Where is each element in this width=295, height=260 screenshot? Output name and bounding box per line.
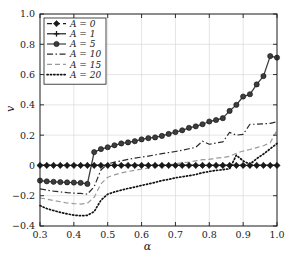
x-tick-label: 0.6 <box>134 229 149 240</box>
x-tick-label: 1.0 <box>269 229 284 240</box>
legend-label: A = 5 <box>69 39 96 49</box>
x-tick-label: 0.8 <box>202 229 217 240</box>
x-axis-label: α <box>0 240 295 253</box>
line-chart: 0.30.40.50.60.70.80.91.0−0.4−0.200.20.40… <box>0 0 295 260</box>
y-tick-label: −0.2 <box>12 190 35 201</box>
legend-label: A = 10 <box>69 49 101 59</box>
y-tick-label: 0 <box>29 160 35 171</box>
legend-label: A = 20 <box>69 70 101 80</box>
y-tick-label: 0.2 <box>20 130 35 141</box>
y-tick-label: −0.4 <box>12 220 35 231</box>
legend: A = 0A = 1A = 5A = 10A = 15A = 20 <box>44 18 106 84</box>
y-tick-label: 0.6 <box>20 69 35 80</box>
legend-label: A = 0 <box>69 19 96 29</box>
x-tick-label: 0.7 <box>168 229 183 240</box>
x-tick-label: 0.4 <box>66 229 81 240</box>
y-tick-label: 0.4 <box>20 99 35 110</box>
y-axis-label: v <box>4 106 17 112</box>
legend-label: A = 15 <box>69 60 101 70</box>
y-tick-label: 1.0 <box>20 8 35 19</box>
x-tick-label: 0.5 <box>100 229 115 240</box>
figure-container: 0.30.40.50.60.70.80.91.0−0.4−0.200.20.40… <box>0 0 295 260</box>
y-tick-label: 0.8 <box>20 39 35 50</box>
legend-label: A = 1 <box>69 29 96 39</box>
x-tick-label: 0.9 <box>236 229 251 240</box>
